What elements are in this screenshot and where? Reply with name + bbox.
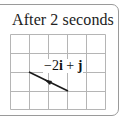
unit-vector-j: j — [78, 58, 83, 73]
coefficient-i: −2 — [44, 58, 59, 73]
plus-sign: + — [63, 58, 78, 73]
vector-label: −2i + j — [43, 59, 83, 73]
